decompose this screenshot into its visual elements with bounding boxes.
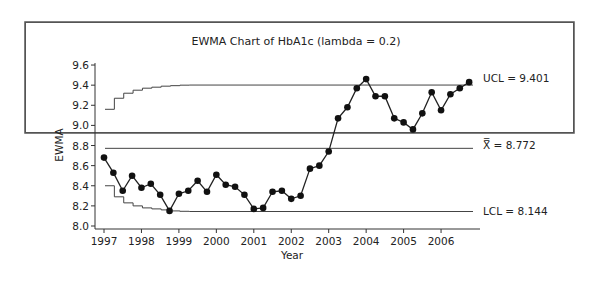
data-point-marker	[438, 107, 445, 114]
data-point-marker	[138, 184, 145, 191]
y-tick-label: 8.2	[72, 200, 89, 212]
data-point-marker	[419, 110, 426, 117]
x-tick-label: 1997	[91, 235, 118, 247]
data-point-marker	[456, 85, 463, 92]
ucl-label: UCL = 9.401	[483, 72, 549, 84]
data-point-marker	[391, 115, 398, 122]
data-point-marker	[176, 191, 183, 198]
data-point-marker	[363, 76, 370, 83]
data-point-marker	[101, 154, 108, 161]
data-point-marker	[382, 93, 389, 100]
chart-title: EWMA Chart of HbA1c (lambda = 0.2)	[192, 35, 401, 48]
x-axis: 1997199819992000200120022003200420052006	[91, 229, 480, 247]
data-point-marker	[335, 115, 342, 122]
x-tick-label: 1998	[128, 235, 155, 247]
x-tick-label: 2001	[240, 235, 267, 247]
data-point-marker	[400, 119, 407, 126]
x-axis-label: Year	[280, 249, 304, 261]
y-tick-label: 9.4	[72, 79, 89, 91]
ewma-line	[104, 79, 469, 211]
data-point-marker	[148, 180, 155, 187]
data-point-marker	[251, 206, 258, 213]
ucl-line	[105, 85, 473, 109]
data-point-marker	[325, 148, 332, 155]
data-point-marker	[269, 188, 276, 195]
data-point-marker	[353, 85, 360, 92]
data-point-marker	[110, 169, 117, 176]
x-tick-label: 2006	[428, 235, 455, 247]
y-tick-label: 8.4	[72, 180, 89, 192]
data-point-marker	[185, 187, 192, 194]
data-point-marker	[213, 171, 220, 178]
data-point-marker	[222, 181, 229, 188]
x-tick-label: 2005	[390, 235, 417, 247]
y-tick-label: 9.6	[72, 59, 89, 71]
data-point-marker	[297, 193, 304, 200]
y-tick-label: 8.6	[72, 160, 89, 172]
y-tick-label: 8.0	[72, 220, 89, 232]
data-point-marker	[288, 196, 295, 203]
x-tick-label: 1999	[166, 235, 193, 247]
y-tick-label: 8.8	[72, 140, 89, 152]
data-point-marker	[428, 89, 435, 96]
x-tick-label: 2002	[278, 235, 305, 247]
data-point-marker	[241, 192, 248, 199]
x-tick-label: 2000	[203, 235, 230, 247]
data-point-marker	[157, 192, 164, 199]
data-point-marker	[372, 93, 379, 100]
data-point-marker	[344, 104, 351, 111]
x-tick-label: 2003	[315, 235, 342, 247]
data-point-marker	[232, 183, 239, 190]
data-point-marker	[129, 172, 136, 179]
ewma-series	[101, 76, 473, 214]
data-point-marker	[204, 188, 211, 195]
ewma-chart: EWMA Chart of HbA1c (lambda = 0.2) 8.08.…	[0, 0, 592, 295]
data-point-marker	[410, 126, 417, 133]
y-axis-label: EWMA	[53, 128, 65, 162]
data-point-marker	[466, 79, 473, 86]
center-line-label: X̿ = 8.772	[483, 138, 536, 151]
data-point-marker	[447, 91, 454, 98]
data-point-marker	[279, 187, 286, 194]
y-tick-label: 9.0	[72, 119, 89, 131]
data-point-marker	[119, 187, 126, 194]
y-axis: 8.08.28.48.68.89.09.29.49.6	[72, 59, 95, 232]
data-point-marker	[260, 205, 267, 212]
lcl-label: LCL = 8.144	[483, 205, 548, 217]
x-tick-label: 2004	[353, 235, 380, 247]
data-point-marker	[307, 165, 314, 172]
data-point-marker	[316, 162, 323, 169]
data-point-marker	[194, 177, 201, 184]
y-tick-label: 9.2	[72, 99, 89, 111]
data-point-marker	[166, 208, 173, 215]
